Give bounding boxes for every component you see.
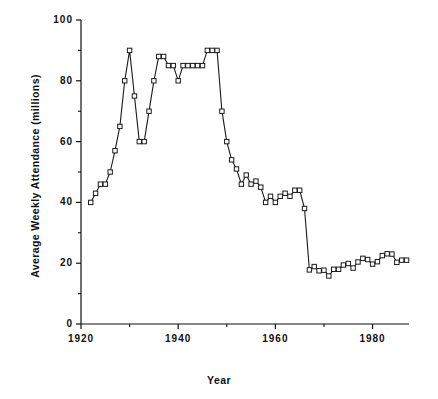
data-point-marker (336, 267, 340, 271)
y-tick-label: 0 (39, 318, 73, 329)
y-axis-ticks (76, 20, 81, 324)
data-point-marker (229, 158, 233, 162)
data-point-marker (152, 79, 156, 83)
y-tick-label: 20 (39, 257, 73, 268)
data-point-marker (370, 262, 374, 266)
data-point-marker (166, 63, 170, 67)
data-point-marker (234, 167, 238, 171)
data-point-marker (380, 253, 384, 257)
data-point-marker (307, 268, 311, 272)
data-series-line (91, 50, 407, 276)
data-point-marker (390, 252, 394, 256)
x-axis-title-text: Year (207, 374, 231, 386)
data-point-marker (317, 269, 321, 273)
y-tick-label: 40 (39, 196, 73, 207)
y-tick-label: 60 (39, 136, 73, 147)
x-tick-label: 1960 (245, 333, 305, 344)
data-point-marker (103, 182, 107, 186)
data-point-marker (404, 258, 408, 262)
data-point-marker (220, 109, 224, 113)
data-point-marker (283, 191, 287, 195)
data-point-marker (312, 264, 316, 268)
data-point-marker (375, 259, 379, 263)
x-axis-title: Year (0, 374, 438, 386)
data-point-marker (89, 200, 93, 204)
x-tick-label: 1980 (343, 333, 403, 344)
data-point-marker (161, 54, 165, 58)
data-point-marker (395, 260, 399, 264)
data-point-marker (210, 48, 214, 52)
data-series-markers (89, 48, 409, 278)
data-point-marker (278, 194, 282, 198)
data-point-marker (273, 200, 277, 204)
data-point-marker (127, 48, 131, 52)
data-point-marker (225, 139, 229, 143)
data-point-marker (322, 268, 326, 272)
data-point-marker (137, 139, 141, 143)
data-point-marker (361, 256, 365, 260)
data-point-marker (98, 182, 102, 186)
data-point-marker (147, 109, 151, 113)
data-point-marker (186, 63, 190, 67)
data-point-marker (113, 149, 117, 153)
data-point-marker (331, 267, 335, 271)
data-point-marker (171, 63, 175, 67)
data-point-marker (259, 185, 263, 189)
data-point-marker (142, 139, 146, 143)
data-point-marker (254, 179, 258, 183)
x-tick-label: 1940 (148, 333, 208, 344)
data-point-marker (249, 182, 253, 186)
data-point-marker (123, 79, 127, 83)
data-point-marker (108, 170, 112, 174)
data-point-marker (157, 54, 161, 58)
data-point-marker (132, 94, 136, 98)
data-point-marker (181, 63, 185, 67)
data-point-marker (356, 260, 360, 264)
data-point-marker (200, 63, 204, 67)
data-point-marker (195, 63, 199, 67)
data-point-marker (239, 182, 243, 186)
data-point-marker (263, 200, 267, 204)
data-point-marker (297, 188, 301, 192)
data-point-marker (191, 63, 195, 67)
data-point-marker (351, 266, 355, 270)
data-point-marker (385, 252, 389, 256)
data-point-marker (205, 48, 209, 52)
data-point-marker (176, 79, 180, 83)
data-point-marker (327, 274, 331, 278)
data-point-marker (288, 194, 292, 198)
y-tick-label: 100 (39, 14, 73, 25)
data-point-marker (366, 257, 370, 261)
data-point-marker (244, 173, 248, 177)
data-point-marker (400, 258, 404, 262)
y-tick-label: 80 (39, 75, 73, 86)
data-point-marker (302, 206, 306, 210)
data-point-marker (293, 188, 297, 192)
x-axis-ticks (81, 324, 373, 329)
data-point-marker (346, 261, 350, 265)
data-point-marker (215, 48, 219, 52)
data-point-marker (118, 124, 122, 128)
data-point-marker (93, 191, 97, 195)
chart-figure: 020406080100 1920194019601980 Average We… (0, 0, 438, 399)
x-tick-label: 1920 (51, 333, 111, 344)
data-point-marker (341, 263, 345, 267)
data-point-marker (268, 194, 272, 198)
axis-lines (81, 20, 409, 324)
